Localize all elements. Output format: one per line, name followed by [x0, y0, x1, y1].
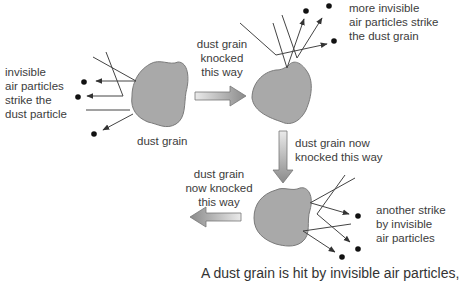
air-particle-dot: [303, 8, 309, 14]
label-another-strike: another strike by invisible air particle…: [376, 203, 446, 245]
label-dust-grain: dust grain: [137, 134, 188, 148]
air-particle-dot: [355, 213, 361, 219]
strike-lines-3: [303, 175, 355, 252]
air-particle-dot: [91, 131, 97, 137]
air-particle-dot: [75, 94, 81, 100]
block-arrow-down-icon: [273, 131, 293, 183]
label-knocked-2: dust grain now knocked this way: [295, 136, 383, 164]
air-particle-dot: [326, 3, 332, 9]
label-knocked-1: dust grain knocked this way: [189, 37, 255, 79]
label-left-particles: invisible air particles strike the dust …: [5, 65, 67, 121]
label-more-particles: more invisible air particles strike the …: [349, 1, 438, 43]
dust-grain-3: [254, 188, 311, 246]
air-particle-dot: [355, 246, 361, 252]
air-particle-dot: [81, 79, 87, 85]
label-knocked-3: dust grain now knocked this way: [183, 167, 255, 209]
block-arrow-left-icon: [190, 207, 241, 227]
dust-grain-2: [252, 62, 311, 123]
air-particle-dot: [331, 38, 337, 44]
air-particle-dot: [339, 254, 345, 260]
dust-grain-1: [132, 62, 188, 127]
block-arrow-right-icon: [195, 86, 246, 106]
caption: A dust grain is hit by invisible air par…: [201, 265, 459, 281]
strike-lines-1: [86, 52, 136, 130]
